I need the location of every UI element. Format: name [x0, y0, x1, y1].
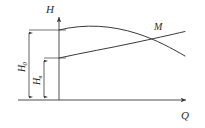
- chart-canvas: H Q H 0 H в M: [0, 0, 205, 128]
- y-axis-label: H: [45, 3, 55, 15]
- dimension-hb-label-sub: в: [36, 76, 43, 79]
- intersection-label-m: M: [153, 21, 163, 32]
- system-resistance-curve: [59, 32, 185, 59]
- figure-container: H Q H 0 H в M: [0, 0, 205, 128]
- dimension-h0-label: H 0: [16, 62, 28, 74]
- dimension-hb-label: H в: [31, 76, 43, 87]
- x-axis-label: Q: [181, 109, 189, 121]
- pump-characteristic-curve: [59, 26, 185, 56]
- dimension-h0-label-sub: 0: [21, 62, 28, 66]
